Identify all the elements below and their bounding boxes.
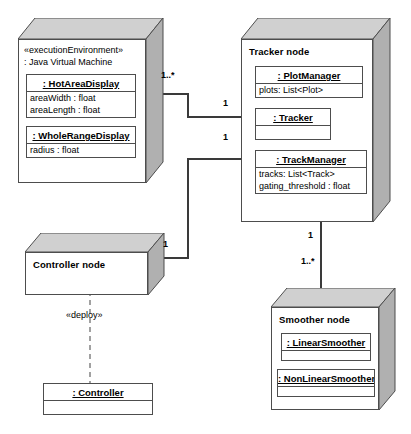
multiplicity-smoother-target: 1..*	[301, 256, 315, 266]
class-name-hotareadisplay: : HotAreaDisplay	[27, 75, 135, 92]
class-attributes-controller-artifact	[44, 401, 152, 402]
attribute: tracks: List<Track>	[259, 169, 363, 181]
node-controller[interactable]: Controller node	[25, 233, 165, 295]
attribute: radius : float	[30, 145, 132, 157]
multiplicity-smoother-source: 1	[308, 230, 313, 240]
class-attributes-tracker	[256, 126, 330, 127]
class-box-wholerangedisplay[interactable]: : WholeRangeDisplay radius : float	[26, 126, 136, 158]
class-name-wholerangedisplay: : WholeRangeDisplay	[27, 127, 135, 144]
node-name-jvm: : Java Virtual Machine	[24, 56, 112, 68]
node-stereotype-jvm: «executionEnvironment»	[24, 44, 123, 56]
class-box-trackmanager[interactable]: : TrackManager tracks: List<Track> gatin…	[255, 150, 367, 194]
attribute: plots: List<Plot>	[259, 85, 359, 97]
multiplicity-controller-source: 1	[163, 239, 168, 249]
deploy-stereotype-label: «deploy»	[66, 310, 103, 320]
class-name-controller-artifact: : Controller	[44, 384, 152, 401]
connector-controller-tracker-seg3	[187, 158, 243, 160]
multiplicity-jvm-target: 1	[223, 98, 228, 108]
node-smoother[interactable]: Smoother node : LinearSmoother : NonLine…	[271, 288, 396, 410]
connector-controller-tracker-seg2	[187, 158, 189, 259]
node-name-controller: Controller node	[33, 259, 105, 270]
multiplicity-controller-target: 1	[223, 132, 228, 142]
class-box-controller-artifact[interactable]: : Controller	[43, 383, 153, 415]
connector-tracker-smoother	[320, 222, 322, 289]
class-box-plotmanager[interactable]: : PlotManager plots: List<Plot>	[255, 66, 363, 98]
deployment-diagram-canvas: 1..* 1 1 1 1 1..* «deploy» «executionEnv…	[0, 0, 411, 434]
class-box-nonlinearsmoother[interactable]: : NonLinearSmoother	[277, 369, 375, 397]
class-attributes-hotareadisplay: areaWidth : float areaLength : float	[27, 92, 135, 116]
class-name-tracker: : Tracker	[256, 109, 330, 126]
class-box-linearsmoother[interactable]: : LinearSmoother	[281, 333, 371, 361]
class-name-linearsmoother: : LinearSmoother	[282, 334, 370, 351]
node-name-smoother: Smoother node	[279, 314, 350, 325]
class-box-hotareadisplay[interactable]: : HotAreaDisplay areaWidth : float areaL…	[26, 74, 136, 118]
class-attributes-wholerangedisplay: radius : float	[27, 144, 135, 157]
connector-jvm-tracker-seg2	[187, 93, 189, 118]
node-tracker[interactable]: Tracker node : PlotManager plots: List<P…	[241, 18, 391, 222]
attribute: areaLength : float	[30, 105, 132, 117]
attribute: gating_threshold : float	[259, 181, 363, 193]
attribute: areaWidth : float	[30, 93, 132, 105]
class-box-tracker[interactable]: : Tracker	[255, 108, 331, 140]
class-attributes-plotmanager: plots: List<Plot>	[256, 84, 362, 97]
class-attributes-linearsmoother	[282, 351, 370, 352]
class-name-trackmanager: : TrackManager	[256, 151, 366, 168]
node-name-tracker: Tracker node	[249, 46, 309, 57]
class-name-nonlinearsmoother: : NonLinearSmoother	[278, 370, 374, 387]
multiplicity-jvm-source: 1..*	[161, 70, 175, 80]
class-attributes-trackmanager: tracks: List<Track> gating_threshold : f…	[256, 168, 366, 192]
class-name-plotmanager: : PlotManager	[256, 67, 362, 84]
connector-jvm-tracker-seg3	[187, 116, 243, 118]
class-attributes-nonlinearsmoother	[278, 387, 374, 388]
node-java-virtual-machine[interactable]: «executionEnvironment» : Java Virtual Ma…	[18, 18, 164, 183]
